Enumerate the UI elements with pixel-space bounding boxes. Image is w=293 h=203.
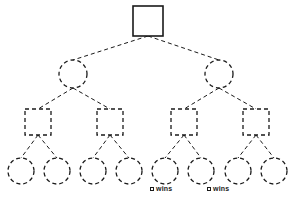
edge-square-3-to-leaf-6	[184, 135, 201, 158]
circle-node-left	[59, 60, 87, 88]
leaf-circle-node-6	[188, 158, 214, 184]
edge-group	[21, 36, 274, 158]
leaf-circle-node-4	[116, 158, 142, 184]
square-node-1	[25, 109, 51, 135]
root-node-group	[133, 6, 163, 36]
square-node-3	[171, 109, 197, 135]
win-annotation-2: wins	[207, 185, 229, 192]
edge-root-to-left-circle	[73, 36, 148, 60]
edge-square-4-to-leaf-8	[256, 135, 274, 158]
edge-square-3-to-leaf-5	[165, 135, 184, 158]
level-3-leaf-circle-nodes	[8, 158, 287, 184]
edge-square-1-to-leaf-1	[21, 135, 38, 158]
square-glyph-icon	[207, 187, 211, 191]
edge-left-circle-to-square-2	[73, 88, 110, 109]
level-2-square-nodes	[25, 109, 269, 135]
leaf-circle-node-8	[261, 158, 287, 184]
edge-square-1-to-leaf-2	[38, 135, 57, 158]
win-annotation-2-text: wins	[213, 185, 229, 192]
edge-square-2-to-leaf-4	[110, 135, 129, 158]
square-glyph-icon	[150, 187, 154, 191]
edge-square-2-to-leaf-3	[93, 135, 110, 158]
leaf-circle-node-3	[80, 158, 106, 184]
leaf-circle-node-7	[225, 158, 251, 184]
win-annotation-1: wins	[150, 185, 172, 192]
edge-root-to-right-circle	[148, 36, 219, 60]
edge-square-4-to-leaf-7	[238, 135, 256, 158]
edge-right-circle-to-square-4	[219, 88, 256, 109]
leaf-circle-node-5	[152, 158, 178, 184]
square-node-2	[97, 109, 123, 135]
edge-right-circle-to-square-3	[184, 88, 219, 109]
root-square-node	[133, 6, 163, 36]
tree-canvas	[0, 0, 293, 203]
leaf-circle-node-1	[8, 158, 34, 184]
win-annotation-1-text: wins	[156, 185, 172, 192]
circle-node-right	[205, 60, 233, 88]
square-node-4	[243, 109, 269, 135]
leaf-circle-node-2	[44, 158, 70, 184]
edge-left-circle-to-square-1	[38, 88, 73, 109]
level-1-circle-nodes	[59, 60, 233, 88]
game-tree-figure: wins wins	[0, 0, 293, 203]
